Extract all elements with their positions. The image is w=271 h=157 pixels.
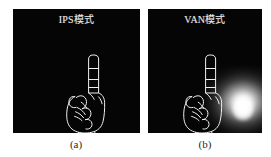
hand-pointing-up-icon [57,49,119,133]
panel-van: VAN模式 [148,9,262,133]
caption-a: (a) [56,137,96,151]
panel-title-van: VAN模式 [148,13,262,26]
caption-b: (b) [185,137,225,151]
panel-title-ips: IPS模式 [13,13,140,26]
panel-ips: IPS模式 [13,9,140,133]
comparison-figure: IPS模式 [0,0,271,157]
hand-drawing-ips [57,49,119,133]
hand-drawing-van [174,49,236,133]
hand-pointing-up-icon [174,49,236,133]
